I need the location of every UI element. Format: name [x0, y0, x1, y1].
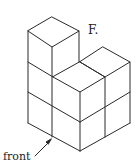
- front-arrow-head: [46, 139, 51, 144]
- tall-cube-top-face: [28, 17, 79, 47]
- cube-structure-diagram: [0, 0, 137, 168]
- right-cube-top-face: [80, 47, 130, 77]
- front-label: front: [3, 150, 30, 163]
- edge: [28, 92, 80, 122]
- option-label: F.: [88, 23, 98, 37]
- front-cube-top-face: [53, 62, 105, 92]
- edge: [28, 62, 53, 77]
- edge: [28, 123, 80, 151]
